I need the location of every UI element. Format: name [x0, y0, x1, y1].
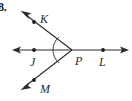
- geometry-figure: 8. K J P L M: [0, 0, 132, 101]
- point-dot-L: [101, 48, 105, 52]
- point-label-P: P: [75, 55, 82, 67]
- point-label-M: M: [40, 83, 50, 95]
- point-dot-M: [32, 78, 36, 82]
- point-label-L: L: [99, 56, 106, 68]
- point-label-J: J: [30, 56, 35, 68]
- point-dot-J: [32, 48, 36, 52]
- diagram-canvas: [0, 0, 132, 101]
- point-label-K: K: [40, 13, 48, 25]
- point-dot-K: [32, 20, 36, 24]
